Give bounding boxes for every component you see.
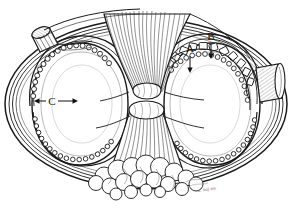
- anatomical-figure: A B C a. naj ms: [0, 0, 292, 209]
- label-a-text: A: [186, 42, 194, 54]
- label-c-text: C: [48, 95, 55, 107]
- label-b-text: B: [207, 30, 214, 42]
- figure-canvas: A B C a. naj ms: [0, 0, 292, 209]
